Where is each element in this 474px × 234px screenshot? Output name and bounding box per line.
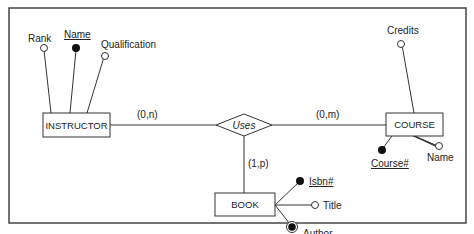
relationship-uses-label: Uses	[233, 120, 256, 131]
attr-simple-icon	[398, 41, 405, 48]
attr-book-author: Author	[303, 228, 333, 234]
entity-instructor-label: INSTRUCTOR	[45, 120, 107, 131]
attr-instructor-qualification: Qualification	[101, 39, 156, 50]
attr-multivalued-inner-icon	[288, 223, 296, 231]
entity-course-label: COURSE	[394, 119, 435, 130]
attr-key-icon	[72, 44, 80, 52]
er-diagram: INSTRUCTOR COURSE BOOK Uses (0,n) (0,m) …	[0, 0, 474, 234]
entity-instructor[interactable]: INSTRUCTOR	[43, 113, 110, 137]
relationship-uses[interactable]: Uses	[216, 114, 272, 136]
attr-simple-icon	[436, 143, 443, 150]
attr-book-title: Title	[323, 200, 342, 211]
entity-book-label: BOOK	[231, 199, 259, 210]
attr-course-name: Name	[427, 152, 454, 163]
attr-book-isbn: Isbn#	[309, 176, 334, 187]
course-name-line	[414, 136, 437, 147]
cardinality-book: (1,p)	[248, 158, 269, 169]
cardinality-course: (0,m)	[316, 109, 339, 120]
attr-simple-icon	[312, 202, 319, 209]
entity-book[interactable]: BOOK	[215, 193, 275, 216]
attr-simple-icon	[102, 53, 109, 60]
attr-simple-icon	[41, 45, 48, 52]
attr-instructor-name: Name	[64, 29, 91, 40]
attr-key-icon	[378, 146, 386, 154]
cardinality-instructor: (0,n)	[137, 109, 158, 120]
attr-course-credits: Credits	[387, 25, 419, 36]
entity-course[interactable]: COURSE	[386, 113, 443, 136]
attr-key-icon	[296, 177, 304, 185]
attr-course-number: Course#	[371, 158, 409, 169]
attr-instructor-rank: Rank	[28, 33, 52, 44]
